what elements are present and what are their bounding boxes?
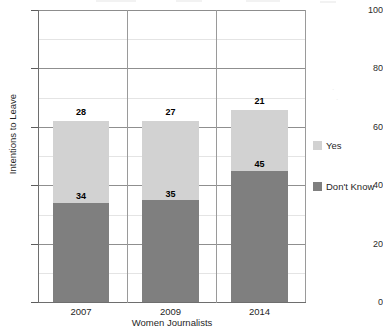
top-crop-artifact: [320, 1, 336, 3]
y-tick-mark-60: [31, 127, 38, 128]
stacked-bar-chart: · · 100 80 60 40 20 0 34 28 35 27 45 21 …: [0, 0, 383, 332]
y-axis-line: [38, 10, 39, 303]
x-tick-label-2009: 2009: [142, 307, 199, 317]
category-separator: [127, 10, 128, 303]
top-crop-artifact: [176, 0, 202, 2]
y-tick-mark-80: [31, 68, 38, 69]
category-separator: [216, 10, 217, 303]
plot-frame-top: [38, 10, 306, 11]
y-tick-mark-0: [31, 302, 38, 303]
scan-smudge: ·: [336, 96, 338, 103]
y-axis-title: Intentions to Leave: [8, 64, 18, 204]
y-tick-label-0: 0: [353, 298, 383, 307]
y-tick-label-100: 100: [353, 6, 383, 15]
bar-label-dontknow-2014: 45: [231, 160, 288, 169]
plot-frame-right: [305, 10, 306, 303]
legend-label-dont-know: Don't Know: [326, 181, 374, 192]
x-axis-line: [38, 302, 306, 303]
bar-label-dontknow-2007: 34: [53, 192, 109, 201]
top-crop-artifact: [96, 0, 136, 2]
bar-label-yes-2007: 28: [53, 108, 109, 117]
x-tick-label-2014: 2014: [231, 307, 288, 317]
bar-label-yes-2009: 27: [142, 108, 199, 117]
legend-swatch-yes: [313, 141, 322, 150]
top-crop-artifact: [246, 0, 280, 2]
legend-swatch-dont-know: [313, 182, 322, 191]
y-tick-label-60: 60: [353, 123, 383, 132]
y-tick-mark-20: [31, 244, 38, 245]
y-tick-label-20: 20: [353, 240, 383, 249]
y-tick-mark-40: [31, 185, 38, 186]
x-tick-label-2007: 2007: [53, 307, 109, 317]
y-tick-mark-100: [31, 10, 38, 11]
bar-label-dontknow-2009: 35: [142, 190, 199, 199]
x-axis-title: Women Journalists: [38, 318, 306, 328]
legend-label-yes: Yes: [326, 140, 342, 151]
bar-segment-dontknow-2009: [142, 200, 199, 302]
bar-segment-dontknow-2014: [231, 171, 288, 302]
y-tick-label-80: 80: [353, 64, 383, 73]
scan-smudge: ·: [332, 86, 334, 93]
bar-label-yes-2014: 21: [231, 97, 288, 106]
gridline-minor-90: [38, 39, 306, 40]
gridline-major-80: [38, 68, 306, 69]
bar-segment-dontknow-2007: [53, 203, 109, 302]
